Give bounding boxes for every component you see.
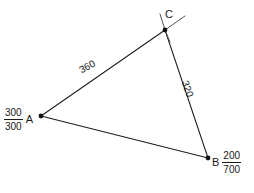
vertex-c-name: C [165, 9, 173, 20]
vertex-a-coordinate-denominator: 300 [4, 121, 23, 132]
vertex-b-coordinate-denominator: 700 [222, 164, 241, 175]
vertex-dot-a [39, 114, 44, 119]
vertex-dot-b [206, 156, 211, 161]
vertex-a-label-group: 300 300 A [4, 107, 33, 132]
vertex-a-coordinate-numerator: 300 [4, 107, 23, 118]
vertex-a-coordinate: 300 300 [4, 107, 23, 132]
vertex-b-coordinate: 200 700 [222, 150, 241, 175]
vertex-b-name: B [212, 157, 219, 168]
vertex-b-coordinate-bar [222, 162, 241, 163]
vertex-a-name: A [26, 114, 33, 125]
triangle-diagram: 300 300 A B 200 700 C 360 320 [0, 0, 254, 193]
edge-ac [41, 30, 165, 116]
vertex-dot-c [163, 28, 168, 33]
vertex-a-coordinate-bar [4, 119, 23, 120]
vertex-b-label-group: B 200 700 [212, 150, 241, 175]
edge-ab [41, 116, 208, 158]
vertex-b-coordinate-numerator: 200 [222, 150, 241, 161]
